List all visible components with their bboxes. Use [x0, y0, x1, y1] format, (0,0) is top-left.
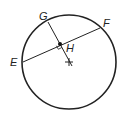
label-g: G — [39, 10, 48, 22]
label-f: F — [103, 17, 111, 29]
circle-diagram: E F G H — [0, 0, 123, 117]
label-h: H — [66, 42, 74, 54]
label-e: E — [10, 56, 18, 68]
point-h-dot — [58, 42, 62, 46]
